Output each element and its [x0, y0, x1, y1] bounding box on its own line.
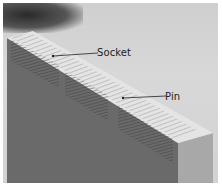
figure: Socket Pin [0, 0, 222, 186]
board-illustration [3, 3, 218, 183]
pin-label: Pin [165, 91, 180, 102]
socket-label: Socket [97, 47, 131, 58]
dovetail-photo: Socket Pin [3, 3, 218, 183]
